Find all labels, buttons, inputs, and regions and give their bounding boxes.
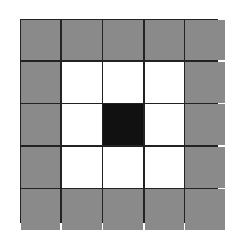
grid-cell-black [103, 104, 143, 145]
grid-cell-white [145, 147, 184, 188]
grid-cell-gray [145, 20, 184, 60]
grid-cell-gray [21, 20, 60, 60]
grid-cell-gray [185, 147, 225, 188]
grid-cell-white [62, 62, 102, 103]
grid-cell-white [145, 62, 184, 103]
grid-cell-gray [21, 104, 60, 145]
grid-cell-gray [185, 104, 225, 145]
grid-cell-white [103, 62, 143, 103]
grid-cell-gray [21, 62, 60, 103]
grid-cell-gray [62, 20, 102, 60]
grid-cell-gray [21, 189, 60, 230]
grid-cell-white [62, 104, 102, 145]
grid-cell-gray [103, 189, 143, 230]
grid-cell-white [145, 104, 184, 145]
grid-5x5 [20, 19, 218, 223]
grid-cell-gray [21, 147, 60, 188]
grid-cell-gray [185, 62, 225, 103]
grid-cell-gray [185, 20, 225, 60]
grid-cell-gray [145, 189, 184, 230]
grid-cell-white [62, 147, 102, 188]
grid-cell-gray [103, 20, 143, 60]
grid-cell-gray [185, 189, 225, 230]
grid-cell-white [103, 147, 143, 188]
grid-cell-gray [62, 189, 102, 230]
